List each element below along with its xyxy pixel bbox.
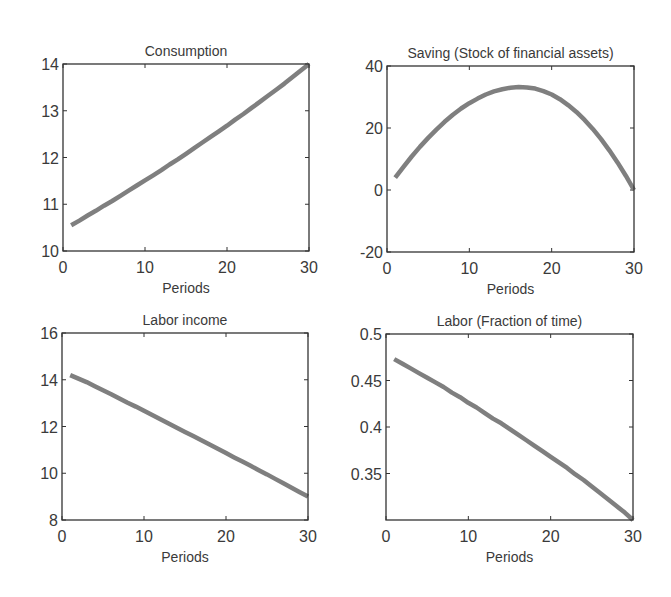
subplot-title: Consumption [145,43,228,59]
x-tick-label: 10 [135,528,153,545]
y-tick-label: 12 [41,150,59,167]
axes-frame [387,66,634,252]
x-tick-label: 0 [383,260,392,277]
y-tick-label: 11 [42,196,59,213]
x-tick-label: 30 [624,528,642,545]
subplot-saving: Saving (Stock of financial assets) Perio… [360,45,643,297]
y-tick-label: 0 [374,182,383,199]
data-line [70,375,308,497]
subplot-consumption: Consumption Periods 01020301011121314 [41,43,318,296]
y-tick-label: 20 [365,120,383,137]
x-axis-label: Periods [161,549,208,565]
figure: Consumption Periods 01020301011121314 Sa… [0,0,671,597]
subplot-title: Saving (Stock of financial assets) [407,45,613,61]
x-axis-label: Periods [486,549,533,565]
data-line [394,359,633,520]
x-tick-label: 30 [625,260,643,277]
axis-ticks: 0102030810121416 [40,325,317,545]
x-tick-label: 20 [217,528,235,545]
x-tick-label: 0 [382,528,391,545]
subplot-labor: Labor (Fraction of time) Periods 0102030… [351,313,642,565]
y-tick-label: 10 [41,243,59,260]
figure-canvas: Consumption Periods 01020301011121314 Sa… [0,0,671,597]
x-tick-label: 20 [218,259,236,276]
x-tick-label: 30 [299,528,317,545]
axes-frame [62,333,308,520]
x-tick-label: 10 [459,528,477,545]
y-tick-label: 12 [40,419,58,436]
x-axis-label: Periods [162,280,209,296]
subplot-title: Labor (Fraction of time) [437,313,583,329]
data-line [71,64,309,225]
x-tick-label: 30 [300,259,318,276]
y-tick-label: 13 [41,103,59,120]
y-tick-label: 0.4 [360,419,382,436]
y-tick-label: 14 [41,56,59,73]
x-tick-label: 20 [543,260,561,277]
x-tick-label: 20 [542,528,560,545]
subplot-title: Labor income [143,312,228,328]
y-tick-label: 8 [49,512,58,529]
x-tick-label: 10 [136,259,154,276]
y-tick-label: 16 [40,325,58,342]
y-tick-label: 10 [40,465,58,482]
y-tick-label: 0.45 [351,373,382,390]
subplot-labor-income: Labor income Periods 0102030810121416 [40,312,317,565]
y-tick-label: 0.35 [351,466,382,483]
data-line [395,87,634,190]
y-tick-label: 0.5 [360,326,382,343]
x-tick-label: 10 [460,260,478,277]
x-tick-label: 0 [58,528,67,545]
y-tick-label: -20 [360,244,383,261]
y-tick-label: 40 [365,58,383,75]
y-tick-label: 14 [40,372,58,389]
x-tick-label: 0 [59,259,68,276]
x-axis-label: Periods [487,281,534,297]
